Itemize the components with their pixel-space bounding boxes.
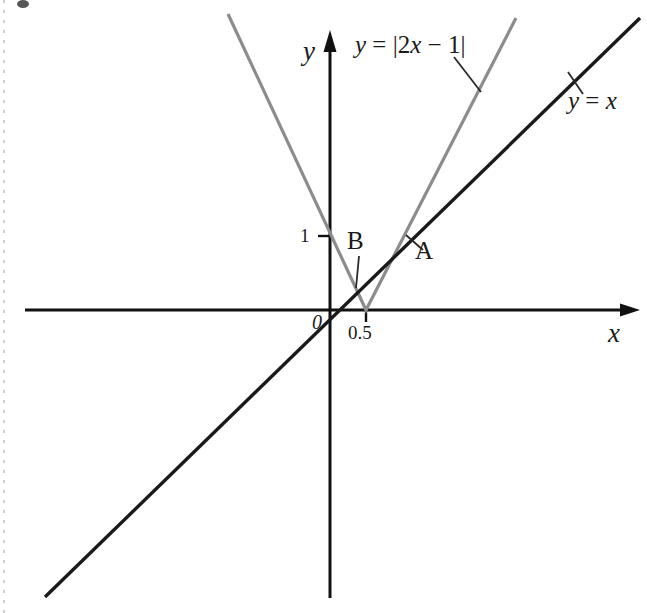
point-a-label: A — [415, 238, 433, 263]
identity-line-label: y = x — [568, 88, 617, 113]
x-axis-label: x — [608, 320, 620, 347]
leader-line-point-b — [356, 256, 359, 288]
x-tick-label-0point5: 0.5 — [348, 323, 372, 342]
scan-speck-artifact — [17, 0, 29, 8]
graph-canvas — [0, 0, 647, 613]
math-figure: y x 0 1 0.5 y = |2x − 1| y = x A B — [0, 0, 647, 613]
x-axis-arrowhead — [620, 304, 640, 317]
y-axis-label: y — [303, 38, 315, 65]
leader-line-abs-label — [454, 57, 481, 92]
absolute-value-curve-label: y = |2x − 1| — [355, 32, 465, 57]
absolute-value-curve — [228, 14, 516, 310]
y-axis-arrowhead — [324, 30, 337, 52]
identity-line — [45, 18, 640, 597]
origin-label: 0 — [312, 312, 322, 332]
y-tick-label-1: 1 — [300, 226, 310, 245]
point-b-label: B — [347, 228, 364, 253]
